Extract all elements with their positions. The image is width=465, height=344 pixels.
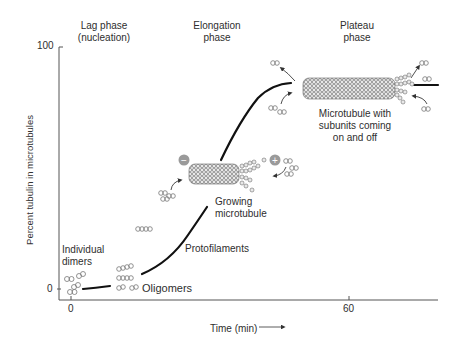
minus-symbol: − xyxy=(181,155,187,166)
plateau-microtubule xyxy=(303,73,414,104)
plus-symbol: + xyxy=(272,155,278,166)
curve-segment-lag xyxy=(83,286,110,289)
arrow-out-right-icon xyxy=(411,66,419,78)
polymerization-curve xyxy=(83,83,438,289)
arrow-in-left-icon xyxy=(281,93,291,104)
dimers-cluster xyxy=(65,272,86,295)
growing-microtubule: − + xyxy=(179,155,281,193)
arrow-in-right-icon xyxy=(413,96,427,104)
arrow-in-plus-icon xyxy=(274,167,286,176)
oligomers-cluster xyxy=(117,227,153,291)
polymerization-diagram: − + xyxy=(0,0,465,344)
curve-segment-protofilaments xyxy=(142,207,207,274)
arrow-out-left-icon xyxy=(281,68,295,81)
curve-segment-elongation xyxy=(221,83,291,160)
arrow-in-minus-icon xyxy=(171,180,181,190)
